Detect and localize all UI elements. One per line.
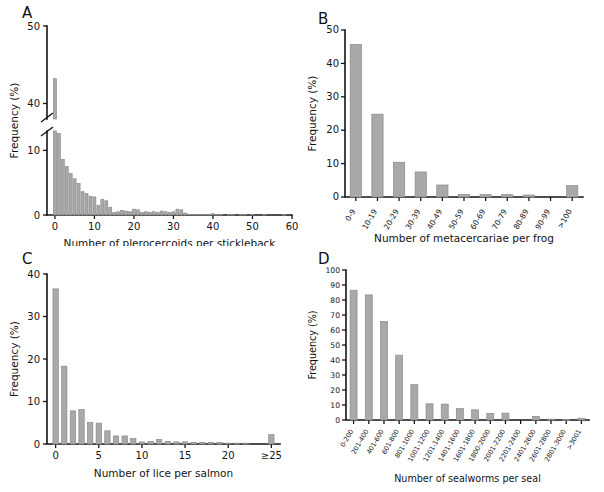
panel-c-xtick-label: 5 — [96, 450, 102, 461]
panel-a-bar — [152, 212, 155, 215]
panel-a-bar — [77, 183, 80, 215]
panel-d-bar — [502, 413, 509, 420]
panel-a-bar — [117, 212, 120, 215]
panel-b-bar — [502, 195, 513, 197]
panel-b-xtick-label: 80-89 — [512, 207, 531, 231]
panel-a-bar — [144, 212, 147, 215]
panel-c-bar — [217, 442, 222, 444]
panel-c-bar — [182, 442, 187, 444]
panel-c-bar — [62, 366, 67, 444]
panel-d-bar — [578, 418, 585, 420]
panel-a-xtick-label: 10 — [88, 221, 101, 232]
panel-a-bar — [172, 212, 175, 215]
panel-a-bar — [105, 201, 108, 215]
panel-c-bar — [79, 410, 84, 444]
panel-c-ytick-label: 30 — [27, 311, 40, 322]
panel-c-bar — [131, 438, 136, 444]
panel-d-ytick-label: 90 — [330, 281, 340, 290]
panel-a-bar — [184, 213, 187, 215]
panel-c-bar — [87, 422, 92, 444]
panel-b-bar — [350, 44, 361, 197]
panel-a-bar — [160, 211, 163, 215]
panel-c-ytick-label: 10 — [27, 396, 40, 407]
panel-a-bar — [69, 174, 72, 215]
panel-a-bar — [81, 192, 84, 215]
panel-a-bar — [215, 214, 218, 215]
panel-d-ytick-label: 100 — [326, 266, 341, 275]
panel-c-xtick-label: 20 — [222, 450, 235, 461]
panel-d-ytick-label: 10 — [330, 401, 340, 410]
panel-d-ytick-label: 60 — [330, 326, 340, 335]
panel-d-bar — [365, 295, 372, 420]
panel-d-bar — [548, 419, 555, 420]
panel-a-bar — [200, 214, 203, 215]
panel-c-xlabel: Number of lice per salmon — [94, 467, 233, 479]
panel-c-bar — [174, 442, 179, 444]
panel-a-bar — [263, 214, 266, 215]
panel-d-xlabel: Number of sealworms per seal — [394, 473, 541, 484]
panel-c-bar — [96, 423, 101, 444]
panel-a-bar — [192, 214, 195, 215]
panel-c-ylabel: Frequency (%) — [8, 321, 20, 397]
panel-a-bar — [251, 214, 254, 215]
panel-a: A 01040500102030405060Frequency (%)Numbe… — [0, 0, 302, 246]
panel-d-ylabel: Frequency (%) — [307, 310, 318, 379]
panel-c-bar — [243, 443, 248, 444]
panel-c-bar — [165, 441, 170, 444]
panel-c: C 01020304005101520≥25Frequency (%)Numbe… — [0, 246, 302, 492]
panel-a-bar — [73, 179, 76, 215]
panel-c-xtick-label: ≥25 — [261, 450, 282, 461]
panel-b-ytick-label: 0 — [333, 191, 339, 202]
panel-b-xtick-label: 70-79 — [490, 207, 509, 231]
panel-d-ytick-label: 70 — [330, 311, 340, 320]
panel-a-ytick-label: 0 — [34, 210, 40, 221]
panel-c-plot: 01020304005101520≥25Frequency (%)Number … — [0, 246, 302, 492]
panel-a-bar — [168, 212, 171, 215]
panel-b-xtick-label: 40-49 — [425, 207, 444, 231]
panel-a-bar — [136, 210, 139, 215]
panel-d-ytick-label: 20 — [330, 386, 340, 395]
panel-c-ytick-label: 0 — [34, 439, 40, 450]
panel-a-plot: 01040500102030405060Frequency (%)Number … — [0, 0, 302, 246]
panel-c-bar — [122, 436, 127, 444]
panel-c-bar — [226, 443, 231, 444]
panel-b-bar — [567, 186, 578, 197]
panel-d-ytick-label: 0 — [335, 416, 340, 425]
panel-b-ytick-label: 40 — [326, 58, 339, 69]
panel-a-ytick-label: 50 — [27, 21, 40, 32]
panel-c-bar — [208, 442, 213, 444]
panel-a-bar — [283, 214, 286, 215]
panel-b-xlabel: Number of metacercariae per frog — [374, 232, 554, 244]
panel-a-xtick-label: 60 — [286, 221, 299, 232]
panel-c-bar — [191, 442, 196, 444]
panel-c-bar — [269, 435, 274, 444]
panel-a-bar — [93, 197, 96, 215]
panel-a-bar — [176, 209, 179, 215]
panel-d-bar — [380, 322, 387, 420]
panel-a-bar — [132, 209, 135, 215]
panel-c-bar — [234, 443, 239, 444]
panel-a-xtick-label: 50 — [246, 221, 259, 232]
panel-c-ytick-label: 20 — [27, 354, 40, 365]
panel-b-plot: 010203040500-910-1920-2930-3940-4950-596… — [302, 0, 604, 246]
panel-a-bar — [89, 196, 92, 215]
panel-a-bar — [208, 214, 211, 215]
panel-d-bar — [426, 404, 433, 420]
panel-a-bar — [227, 214, 230, 215]
panel-c-bar — [105, 431, 110, 444]
panel-c-xtick-label: 0 — [52, 450, 58, 461]
panel-d-plot: 01020304050607080901000-200201-400401-60… — [302, 246, 604, 492]
panel-b-ylabel: Frequency (%) — [306, 76, 318, 152]
panel-a-bar — [101, 199, 104, 215]
panel-a-bar — [85, 194, 88, 215]
panel-a-bar — [57, 134, 60, 215]
panel-d: D 01020304050607080901000-200201-400401-… — [302, 246, 604, 492]
panel-b-ytick-label: 30 — [326, 91, 339, 102]
panel-b-bar — [523, 195, 534, 197]
panel-d-bar — [456, 409, 463, 420]
panel-d-bar — [411, 385, 418, 420]
panel-c-bar — [139, 442, 144, 444]
panel-d-ytick-label: 50 — [330, 341, 340, 350]
panel-c-xtick-label: 10 — [136, 450, 149, 461]
panel-a-bar — [156, 212, 159, 215]
